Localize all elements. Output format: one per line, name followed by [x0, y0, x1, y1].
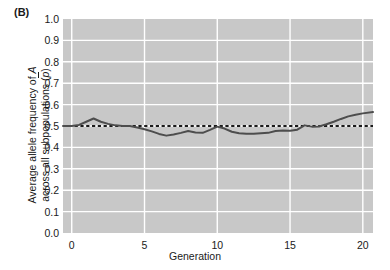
- figure-panel-b: (B) Average allele frequency of A across…: [0, 0, 390, 270]
- plot-area: [0, 0, 390, 270]
- x-axis-title: Generation: [0, 250, 390, 262]
